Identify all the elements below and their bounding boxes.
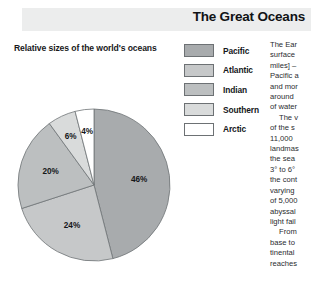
legend-label-pacific: Pacific	[223, 46, 249, 56]
legend-label-southern: Southern	[223, 105, 259, 115]
article-line: light fail	[270, 217, 296, 226]
pie-slice-label-arctic: 4%	[81, 127, 94, 136]
pie-chart-svg: 46%24%20%6%4%	[14, 104, 176, 269]
article-line: The v	[279, 113, 298, 122]
pie-slice-group	[18, 109, 170, 261]
legend-item-pacific: Pacific	[184, 41, 264, 61]
article-line: and mor	[270, 82, 298, 91]
pie-slice-label-atlantic: 24%	[64, 221, 81, 230]
legend-label-indian: Indian	[223, 85, 247, 95]
legend-swatch-atlantic	[184, 64, 214, 77]
article-line: miles] –	[270, 61, 296, 70]
legend-item-atlantic: Atlantic	[184, 61, 264, 81]
pie-slice-label-pacific: 46%	[131, 175, 148, 184]
article-line: Pacific a	[270, 71, 299, 80]
article-line: landmas	[270, 144, 299, 153]
article-line: 11,000	[270, 134, 293, 143]
pie-slice-label-southern: 6%	[65, 132, 78, 141]
legend-swatch-indian	[184, 83, 214, 96]
article-paragraph-2: The v of the s 11,000 landmas the sea 3°…	[270, 113, 311, 227]
article-line: tinental	[270, 248, 295, 257]
legend-item-arctic: Arctic	[184, 119, 264, 139]
legend-swatch-arctic	[184, 123, 214, 136]
article-line: of the s	[270, 123, 295, 132]
legend-label-arctic: Arctic	[223, 124, 246, 134]
legend-label-atlantic: Atlantic	[223, 65, 253, 75]
article-line: around	[270, 92, 294, 101]
article-line: of 5,000	[270, 196, 297, 205]
legend-swatch-southern	[184, 103, 214, 116]
infographic-page: The Great Oceans Relative sizes of the w…	[0, 0, 311, 290]
article-line: From	[279, 227, 297, 236]
legend-item-indian: Indian	[184, 80, 264, 100]
article-line: of water	[270, 102, 297, 111]
article-line: abyssal	[270, 207, 296, 216]
article-line: The Ear	[270, 40, 297, 49]
article-line: surface	[270, 50, 295, 59]
pie-chart: 46%24%20%6%4%	[14, 104, 176, 269]
chart-subtitle: Relative sizes of the world's oceans	[14, 43, 157, 53]
pie-slice-label-indian: 20%	[42, 167, 59, 176]
article-text-column: The Ear surface miles] – Pacific a and m…	[270, 40, 311, 269]
article-paragraph-3: From base to tinental reaches	[270, 227, 311, 269]
article-paragraph-1: The Ear surface miles] – Pacific a and m…	[270, 40, 311, 113]
article-line: reaches	[270, 259, 297, 268]
page-title: The Great Oceans	[193, 9, 305, 24]
legend-swatch-pacific	[184, 44, 214, 57]
legend-item-southern: Southern	[184, 100, 264, 120]
article-line: 3° to 6°	[270, 165, 295, 174]
article-line: base to	[270, 238, 295, 247]
chart-legend: Pacific Atlantic Indian Southern Arctic	[184, 41, 264, 139]
article-line: varying	[270, 186, 294, 195]
article-line: the sea	[270, 154, 295, 163]
article-line: the cont	[270, 175, 297, 184]
